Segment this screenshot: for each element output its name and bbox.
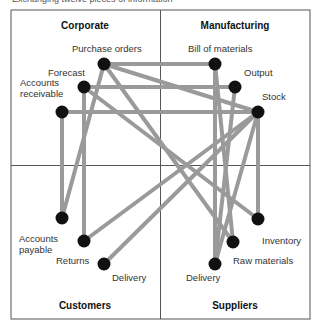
label-returns: Returns: [56, 255, 89, 266]
label-bill_of_materials: Bill of materials: [188, 43, 252, 54]
node-purchase_orders: [98, 58, 111, 71]
node-returns: [78, 235, 91, 248]
label-stock: Stock: [262, 91, 286, 102]
information-exchange-diagram: [0, 0, 322, 329]
label-delivery_customers: Delivery: [112, 272, 146, 283]
label-inventory: Inventory: [262, 235, 301, 246]
node-raw_materials: [227, 236, 240, 249]
label-delivery_suppliers: Delivery: [186, 272, 220, 283]
node-accounts_payable: [56, 212, 69, 225]
node-stock: [252, 106, 265, 119]
label-accounts_receivable: Accountsreceivable: [20, 77, 63, 99]
node-accounts_receivable: [56, 106, 69, 119]
node-inventory: [252, 213, 265, 226]
quadrant-title-customers: Customers: [59, 300, 111, 311]
node-bill_of_materials: [209, 58, 222, 71]
quadrant-frame: [11, 10, 310, 319]
label-purchase_orders: Purchase orders: [72, 43, 142, 54]
node-delivery_suppliers: [209, 258, 222, 271]
quadrant-title-suppliers: Suppliers: [212, 300, 258, 311]
node-forecast: [78, 81, 91, 94]
quadrant-title-corporate: Corporate: [61, 20, 109, 31]
node-delivery_customers: [98, 258, 111, 271]
node-output: [229, 81, 242, 94]
label-accounts_payable: Accountspayable: [19, 233, 58, 255]
label-raw_materials: Raw materials: [233, 255, 293, 266]
label-output: Output: [244, 67, 273, 78]
quadrant-title-manufacturing: Manufacturing: [201, 20, 270, 31]
